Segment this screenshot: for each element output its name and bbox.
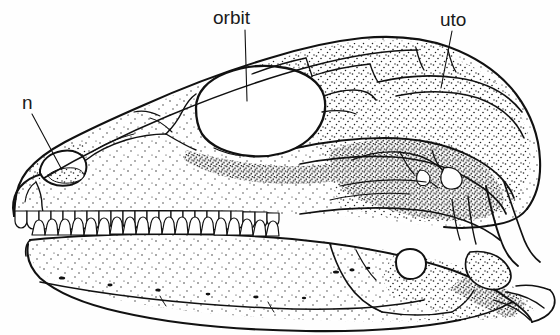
label-orbit: orbit bbox=[213, 8, 250, 27]
mandibular-fenestra bbox=[396, 249, 426, 279]
skull-drawing bbox=[0, 0, 560, 335]
orbit-opening bbox=[196, 66, 325, 156]
skull-outline-group bbox=[0, 30, 560, 335]
label-uto: uto bbox=[440, 10, 466, 29]
label-n: n bbox=[22, 93, 33, 112]
skull-illustration-figure: orbit uto n bbox=[0, 0, 560, 335]
